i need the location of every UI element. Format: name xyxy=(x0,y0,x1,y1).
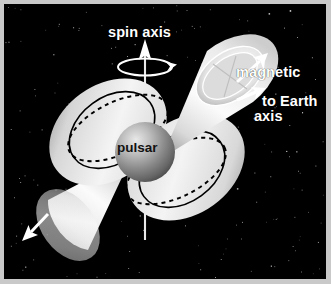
star xyxy=(30,132,31,133)
star xyxy=(256,202,257,203)
star xyxy=(35,89,36,90)
star xyxy=(301,272,302,273)
star xyxy=(25,175,26,176)
star xyxy=(241,239,242,240)
star xyxy=(198,245,199,246)
star xyxy=(25,267,26,268)
rotation-indicator xyxy=(118,59,177,76)
star xyxy=(270,176,271,177)
star xyxy=(321,223,322,224)
star xyxy=(276,219,277,220)
star xyxy=(215,277,216,278)
label-magnetic-axis-line2: axis xyxy=(236,109,300,124)
star xyxy=(19,178,20,179)
star xyxy=(8,42,9,43)
star xyxy=(14,197,15,198)
pulsar-diagram-figure: spin axis magnetic axis to Earth pulsar xyxy=(0,0,331,284)
star xyxy=(21,9,22,10)
star xyxy=(236,225,237,226)
star xyxy=(242,222,243,223)
star xyxy=(5,42,6,43)
star xyxy=(298,171,299,172)
star xyxy=(313,273,314,274)
star xyxy=(200,27,201,28)
star xyxy=(21,41,22,42)
star xyxy=(112,64,113,65)
star xyxy=(323,141,324,142)
star xyxy=(139,272,140,273)
star xyxy=(302,112,303,113)
star xyxy=(247,21,248,22)
star xyxy=(323,195,324,196)
starfield-background: spin axis magnetic axis to Earth pulsar xyxy=(4,4,326,279)
star xyxy=(33,260,34,261)
label-magnetic-axis-line1: magnetic xyxy=(236,65,300,80)
star xyxy=(185,226,186,227)
star xyxy=(135,44,136,45)
star xyxy=(300,173,301,174)
star xyxy=(319,269,320,270)
star xyxy=(308,212,309,213)
star xyxy=(223,254,224,255)
label-to-earth: to Earth xyxy=(262,94,318,109)
star xyxy=(284,28,285,29)
star xyxy=(37,185,38,186)
star xyxy=(73,27,74,28)
star xyxy=(15,8,16,9)
star xyxy=(277,218,278,219)
star xyxy=(79,28,80,29)
star xyxy=(271,266,272,267)
star xyxy=(143,8,144,9)
star xyxy=(11,129,12,130)
star xyxy=(164,22,165,23)
star xyxy=(192,26,193,27)
star xyxy=(290,10,292,12)
star xyxy=(33,180,34,181)
star xyxy=(86,12,87,13)
star xyxy=(167,55,168,56)
star xyxy=(102,25,103,26)
star xyxy=(302,24,303,25)
star xyxy=(200,269,201,270)
star xyxy=(221,259,222,260)
star xyxy=(266,222,267,223)
star xyxy=(35,96,36,97)
star xyxy=(226,249,227,250)
star xyxy=(140,215,141,216)
star xyxy=(288,260,289,261)
star xyxy=(254,173,255,174)
star xyxy=(127,236,128,237)
star xyxy=(16,243,17,244)
star xyxy=(293,246,294,247)
star xyxy=(20,111,21,112)
star xyxy=(111,48,112,49)
star xyxy=(16,236,17,237)
star xyxy=(295,250,296,251)
star xyxy=(79,30,80,31)
star xyxy=(195,60,196,61)
star xyxy=(23,270,24,271)
star xyxy=(97,277,98,278)
star xyxy=(227,239,228,240)
star xyxy=(265,192,266,193)
star xyxy=(318,242,319,243)
star xyxy=(8,7,9,8)
star xyxy=(129,251,130,252)
star xyxy=(53,54,54,55)
label-spin-axis: spin axis xyxy=(108,25,171,40)
star xyxy=(239,19,240,20)
star xyxy=(289,156,290,157)
star xyxy=(21,223,22,224)
star xyxy=(210,9,211,10)
star xyxy=(194,28,195,29)
star xyxy=(66,189,67,190)
star xyxy=(187,57,188,58)
star xyxy=(181,30,182,31)
star xyxy=(249,31,250,32)
star xyxy=(59,24,60,25)
star xyxy=(312,57,313,58)
star xyxy=(77,273,78,274)
star xyxy=(251,271,252,272)
star xyxy=(315,79,316,80)
star xyxy=(274,266,275,267)
